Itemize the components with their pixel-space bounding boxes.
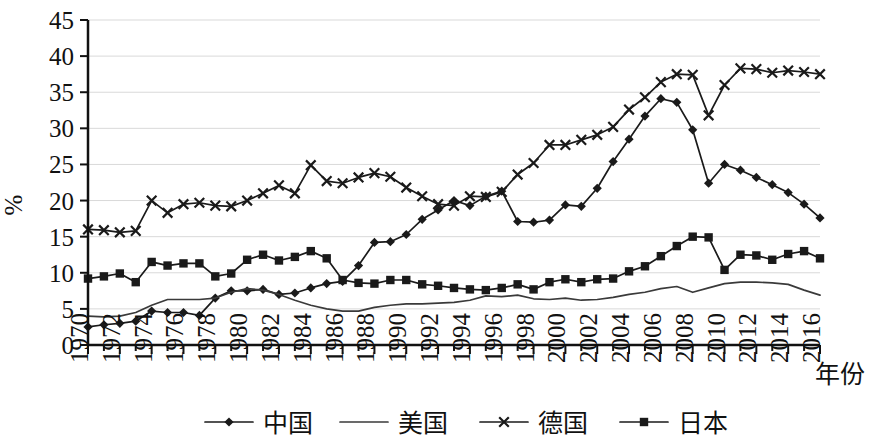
legend-label: 德国	[538, 410, 588, 437]
x-tick-label: 1994	[448, 312, 475, 363]
data-point-square	[275, 256, 283, 264]
data-point-square	[163, 261, 171, 269]
data-point-square	[322, 254, 330, 262]
x-tick-label: 1998	[512, 313, 539, 363]
data-point-square	[513, 280, 521, 288]
data-point-square	[227, 269, 235, 277]
data-point-square	[243, 256, 251, 264]
data-point-square	[784, 250, 792, 258]
data-point-square	[402, 276, 410, 284]
x-tick-label: 1978	[193, 313, 220, 363]
data-point-square	[259, 251, 267, 259]
data-point-square	[720, 266, 728, 274]
y-tick-label: 10	[49, 260, 74, 287]
data-point-square	[768, 256, 776, 264]
data-point-square	[195, 259, 203, 267]
y-tick-label: 30	[49, 115, 74, 142]
data-point-square	[211, 272, 219, 280]
x-tick-label: 1984	[289, 313, 316, 364]
legend-label: 日本	[678, 410, 728, 437]
data-point-square	[100, 272, 108, 280]
data-point-square	[147, 258, 155, 266]
data-point-square	[466, 285, 474, 293]
x-tick-label: 1976	[161, 313, 188, 363]
data-point-square	[529, 285, 537, 293]
data-point-square	[625, 267, 633, 275]
data-point-square	[291, 253, 299, 261]
data-point-square	[736, 251, 744, 259]
x-tick-label: 2012	[734, 313, 761, 363]
y-tick-label: 15	[49, 224, 74, 251]
data-point-square	[116, 269, 124, 277]
data-point-square	[498, 284, 506, 292]
data-point-square	[482, 286, 490, 294]
x-tick-label: 1996	[480, 313, 507, 363]
y-axis-title: %	[0, 195, 27, 216]
data-point-square	[673, 242, 681, 250]
data-point-square	[640, 418, 648, 426]
data-point-square	[370, 279, 378, 287]
data-point-square	[609, 274, 617, 282]
data-point-square	[434, 282, 442, 290]
y-tick-label: 35	[49, 79, 74, 106]
x-tick-label: 1990	[384, 313, 411, 363]
data-point-square	[545, 278, 553, 286]
x-tick-label: 1986	[321, 313, 348, 363]
legend-label: 美国	[398, 410, 448, 437]
legend-label: 中国	[263, 410, 313, 437]
data-point-square	[354, 279, 362, 287]
data-point-square	[338, 276, 346, 284]
x-tick-label: 1970	[66, 313, 93, 363]
x-tick-label: 2002	[575, 313, 602, 363]
data-point-square	[179, 259, 187, 267]
x-tick-label: 2006	[639, 313, 666, 363]
x-tick-label: 1980	[225, 313, 252, 363]
data-point-square	[704, 233, 712, 241]
data-point-square	[641, 262, 649, 270]
data-point-square	[752, 251, 760, 259]
data-point-square	[593, 275, 601, 283]
x-tick-label: 2000	[543, 313, 570, 363]
data-point-square	[688, 232, 696, 240]
data-point-square	[307, 247, 315, 255]
chart-canvas: 051015202530354045 197019721974197619781…	[0, 0, 876, 439]
x-tick-label: 2004	[607, 313, 634, 364]
data-point-square	[386, 276, 394, 284]
line-chart: 051015202530354045 197019721974197619781…	[0, 0, 876, 439]
data-point-square	[418, 280, 426, 288]
y-tick-label: 45	[49, 7, 74, 34]
x-tick-label: 2014	[766, 313, 793, 364]
chart-background	[0, 0, 876, 439]
x-tick-label: 1988	[352, 313, 379, 363]
data-point-square	[816, 254, 824, 262]
data-point-square	[800, 247, 808, 255]
data-point-square	[657, 252, 665, 260]
data-point-square	[132, 278, 140, 286]
y-tick-label: 25	[49, 151, 74, 178]
x-tick-label: 1992	[416, 313, 443, 363]
x-tick-label: 1972	[98, 313, 125, 363]
y-tick-label: 20	[49, 188, 74, 215]
x-tick-label: 1982	[257, 313, 284, 363]
x-axis-title: 年份	[815, 361, 865, 388]
data-point-square	[561, 275, 569, 283]
x-tick-label: 2010	[703, 313, 730, 363]
x-tick-label: 2016	[798, 313, 825, 363]
data-point-square	[577, 278, 585, 286]
x-tick-label: 2008	[671, 313, 698, 363]
x-tick-label: 1974	[130, 313, 157, 364]
y-tick-label: 40	[49, 43, 74, 70]
data-point-square	[450, 284, 458, 292]
